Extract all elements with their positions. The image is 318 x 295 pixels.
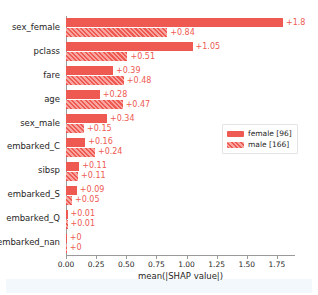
legend-item-male[interactable]: male [166] xyxy=(227,139,292,150)
x-axis-tick-label: 1.50 xyxy=(238,261,255,269)
x-axis-tick xyxy=(96,256,97,259)
bar-group: embarked_S+0.09+0.05 xyxy=(66,183,295,207)
y-axis-tick-label: sex_female xyxy=(12,23,60,32)
legend-swatch-male xyxy=(227,142,244,148)
bar-value-label: +1.05 xyxy=(196,43,221,51)
bar-value-label: +0.24 xyxy=(98,148,123,156)
bar-group: pclass+1.05+0.51 xyxy=(66,40,295,64)
bar-female[interactable]: +0 xyxy=(66,234,67,243)
bar-female[interactable]: +0.39 xyxy=(66,66,113,75)
legend-swatch-female xyxy=(227,131,244,137)
bar-female[interactable]: +1.8 xyxy=(66,18,283,27)
bar-value-label: +0.51 xyxy=(130,53,155,61)
bar-value-label: +0.11 xyxy=(81,172,106,180)
y-axis-tick-label: sex_male xyxy=(20,119,60,128)
legend-label-male: male [166] xyxy=(248,141,289,149)
y-axis-tick-label: age xyxy=(44,95,60,104)
bar-female[interactable]: +1.05 xyxy=(66,42,193,51)
legend-label-female: female [96] xyxy=(248,130,292,138)
x-axis-title: mean(|SHAP value|) xyxy=(66,272,295,281)
bar-male[interactable]: +0.47 xyxy=(66,100,123,109)
bar-value-label: +0.11 xyxy=(82,162,107,170)
bar-value-label: +0.16 xyxy=(88,138,113,146)
bar-female[interactable]: +0.16 xyxy=(66,138,85,147)
x-axis-tick-label: 0.75 xyxy=(148,261,165,269)
bar-male[interactable]: +0.51 xyxy=(66,52,127,61)
y-axis-tick-label: sibsp xyxy=(38,166,60,175)
bar-male[interactable]: +0.11 xyxy=(66,172,78,181)
x-axis-tick xyxy=(187,256,188,259)
bar-group: fare+0.39+0.48 xyxy=(66,64,295,88)
bar-value-label: +0.34 xyxy=(110,115,135,123)
bar-value-label: +0.01 xyxy=(71,210,96,218)
bar-female[interactable]: +0.28 xyxy=(66,90,100,99)
bar-value-label: +0.15 xyxy=(87,125,112,133)
bar-male[interactable]: +0 xyxy=(66,244,67,253)
x-axis-spine xyxy=(66,255,295,256)
bar-male[interactable]: +0.24 xyxy=(66,148,95,157)
x-axis-tick-label: 1.25 xyxy=(208,261,225,269)
bar-male[interactable]: +0.05 xyxy=(66,196,72,205)
y-axis-tick-label: embarked_Q xyxy=(6,214,60,223)
bar-value-label: +0.47 xyxy=(126,101,151,109)
bar-female[interactable]: +0.09 xyxy=(66,186,77,195)
x-axis-tick-label: 0.00 xyxy=(58,261,75,269)
bar-value-label: +0.01 xyxy=(71,220,96,228)
x-axis-tick xyxy=(156,256,157,259)
legend: female [96] male [166] xyxy=(222,124,298,154)
y-axis-tick-label: pclass xyxy=(34,47,61,56)
x-axis-tick-label: 0.25 xyxy=(88,261,105,269)
bar-value-label: +0 xyxy=(70,234,82,242)
y-axis-tick-label: embarked_C xyxy=(7,142,60,151)
bar-male[interactable]: +0.48 xyxy=(66,76,124,85)
bar-group: age+0.28+0.47 xyxy=(66,88,295,112)
bar-value-label: +0.84 xyxy=(170,29,195,37)
bar-group: sibsp+0.11+0.11 xyxy=(66,159,295,183)
y-axis-tick-label: fare xyxy=(43,71,60,80)
bar-group: embarked_Q+0.01+0.01 xyxy=(66,207,295,231)
bar-male[interactable]: +0.84 xyxy=(66,28,167,37)
bar-group: embarked_nan+0+0 xyxy=(66,231,295,255)
bar-male[interactable]: +0.01 xyxy=(66,220,68,229)
bar-value-label: +0 xyxy=(70,244,82,252)
y-axis-tick-label: embarked_nan xyxy=(0,238,60,247)
x-axis-tick xyxy=(126,256,127,259)
bar-male[interactable]: +0.15 xyxy=(66,124,84,133)
legend-item-female[interactable]: female [96] xyxy=(227,128,292,139)
bar-value-label: +0.28 xyxy=(103,91,128,99)
bar-value-label: +0.39 xyxy=(116,67,141,75)
bar-female[interactable]: +0.11 xyxy=(66,162,79,171)
bar-female[interactable]: +0.34 xyxy=(66,114,107,123)
bar-value-label: +1.8 xyxy=(286,19,305,27)
y-axis-tick-label: embarked_S xyxy=(8,190,61,199)
x-axis-tick xyxy=(66,256,67,259)
x-axis-tick-label: 1.00 xyxy=(178,261,195,269)
bar-value-label: +0.48 xyxy=(127,77,152,85)
bar-value-label: +0.05 xyxy=(75,196,100,204)
x-axis-tick xyxy=(247,256,248,259)
x-axis-tick xyxy=(277,256,278,259)
x-axis-tick-label: 1.75 xyxy=(269,261,286,269)
figure-bottom-band xyxy=(6,279,312,293)
bar-value-label: +0.09 xyxy=(80,186,105,194)
shap-bar-chart-figure: sex_female+1.8+0.84pclass+1.05+0.51fare+… xyxy=(0,0,318,295)
bar-group: sex_female+1.8+0.84 xyxy=(66,16,295,40)
x-axis-tick xyxy=(217,256,218,259)
x-axis-tick-label: 0.50 xyxy=(118,261,135,269)
bar-female[interactable]: +0.01 xyxy=(66,210,68,219)
